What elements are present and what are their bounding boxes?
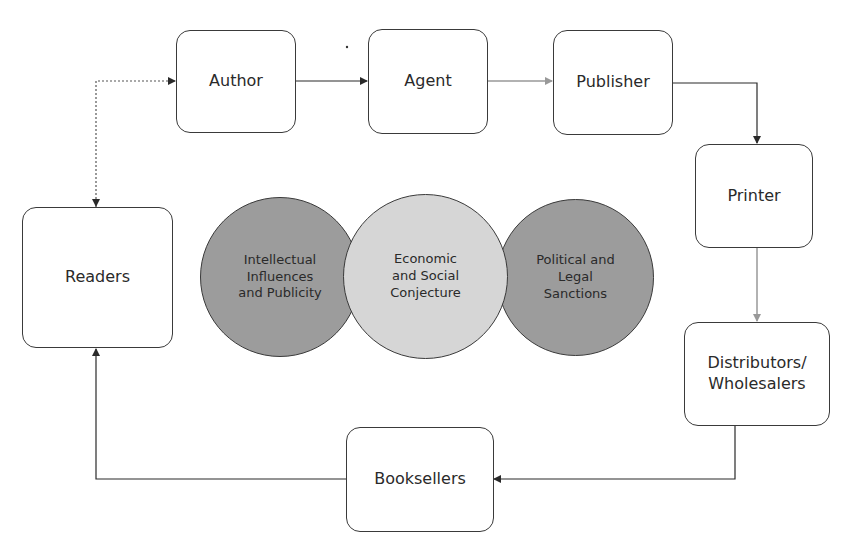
node-distributors[interactable]: Distributors/ Wholesalers (684, 322, 830, 426)
distributors-booksellers-arrow (494, 426, 735, 479)
node-readers[interactable]: Readers (22, 207, 173, 348)
node-printer-label: Printer (727, 186, 780, 207)
node-agent-label: Agent (404, 71, 451, 92)
readers-author-dotted-arrow (96, 81, 175, 207)
circle-intellectual: Intellectual Influences and Publicity (200, 197, 360, 357)
node-author-label: Author (209, 71, 263, 92)
circle-political-label: Political and Legal Sanctions (536, 252, 615, 303)
node-booksellers-label: Booksellers (374, 469, 466, 490)
node-publisher[interactable]: Publisher (553, 30, 673, 135)
circle-economic-label: Economic and Social Conjecture (390, 251, 460, 302)
booksellers-readers-arrow (96, 349, 346, 479)
circle-economic: Economic and Social Conjecture (343, 194, 508, 359)
node-booksellers[interactable]: Booksellers (346, 427, 494, 532)
circle-political: Political and Legal Sanctions (497, 199, 654, 356)
node-publisher-label: Publisher (576, 72, 649, 93)
circle-intellectual-label: Intellectual Influences and Publicity (238, 252, 321, 303)
node-readers-label: Readers (65, 267, 130, 288)
publisher-printer-arrow (672, 83, 757, 143)
node-printer[interactable]: Printer (695, 144, 813, 248)
stray-dot (346, 46, 348, 48)
node-author[interactable]: Author (176, 30, 296, 133)
node-agent[interactable]: Agent (368, 29, 488, 134)
node-distributors-label: Distributors/ Wholesalers (707, 353, 806, 395)
